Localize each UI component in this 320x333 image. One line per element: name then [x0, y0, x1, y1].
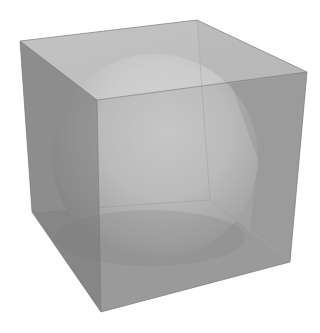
cube-sphere-render — [0, 0, 320, 333]
